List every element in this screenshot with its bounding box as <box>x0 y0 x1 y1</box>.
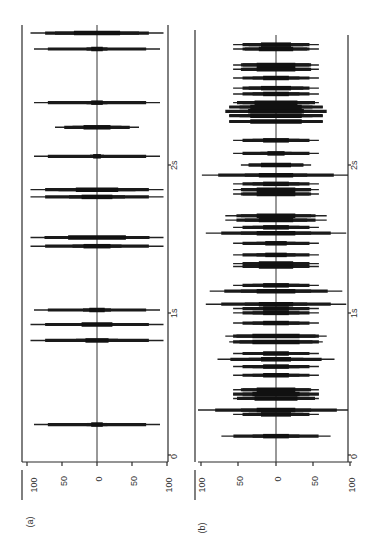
panel-b-plot: 0 1s 2s 100 50 0 50 100 (b) <box>195 30 359 534</box>
panel-a-tick-0: 0 <box>169 454 179 459</box>
panel-a-ylabel-50-left: 50 <box>59 476 69 486</box>
panel-b-spikes <box>198 45 348 437</box>
panel-b-label: (b) <box>197 522 207 533</box>
panel-b-tick-0: 0 <box>349 454 359 459</box>
panel-a-tick-1s: 1s <box>169 308 179 318</box>
spike-train-figure: 0 1s 2s 100 50 0 50 100 (a) 0 1s 2s <box>0 0 383 539</box>
panel-b-ylabel-50-right: 50 <box>310 476 320 486</box>
panel-a-ylabel-100-left: 100 <box>29 477 39 492</box>
panel-a-label: (a) <box>25 516 35 527</box>
panel-a-ylabel-50-right: 50 <box>129 476 139 486</box>
panel-b-tick-2s: 2s <box>349 160 359 170</box>
panel-b-ylabel-100-left: 100 <box>197 477 207 492</box>
panel-a-ylabel-100-right: 100 <box>164 477 174 492</box>
panel-a-plot: 0 1s 2s 100 50 0 50 100 (a) <box>22 25 179 528</box>
panel-a-ylabel-0: 0 <box>94 476 104 481</box>
panel-b-ylabel-100-right: 100 <box>347 477 357 492</box>
panel-b-tick-1s: 1s <box>349 308 359 318</box>
panel-b-ylabel-50-left: 50 <box>235 476 245 486</box>
panel-b-ylabel-0: 0 <box>273 476 283 481</box>
panel-a-tick-2s: 2s <box>169 160 179 170</box>
